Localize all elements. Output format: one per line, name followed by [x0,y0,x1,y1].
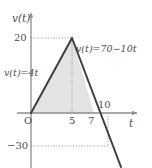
velocity-time-graph-figure: v(t) t 20 −30 O 5 7 10 v(t)=4t v(t)=70−1… [0,0,152,168]
left-segment-equation-label: v(t)=4t [4,68,38,78]
x-tick-label-origin: O [24,116,32,126]
y-axis-label: v(t) [12,13,30,24]
right-segment-equation-label: v(t)=70−10t [76,44,137,54]
y-tick-label-20: 20 [14,33,27,43]
x-tick-label-7: 7 [88,116,94,126]
x-axis-arrow-icon [132,111,137,115]
x-axis-label: t [129,118,133,129]
x-tick-label-10: 10 [98,100,111,110]
y-tick-label-neg30: −30 [7,141,28,151]
x-tick-label-5: 5 [69,116,75,126]
